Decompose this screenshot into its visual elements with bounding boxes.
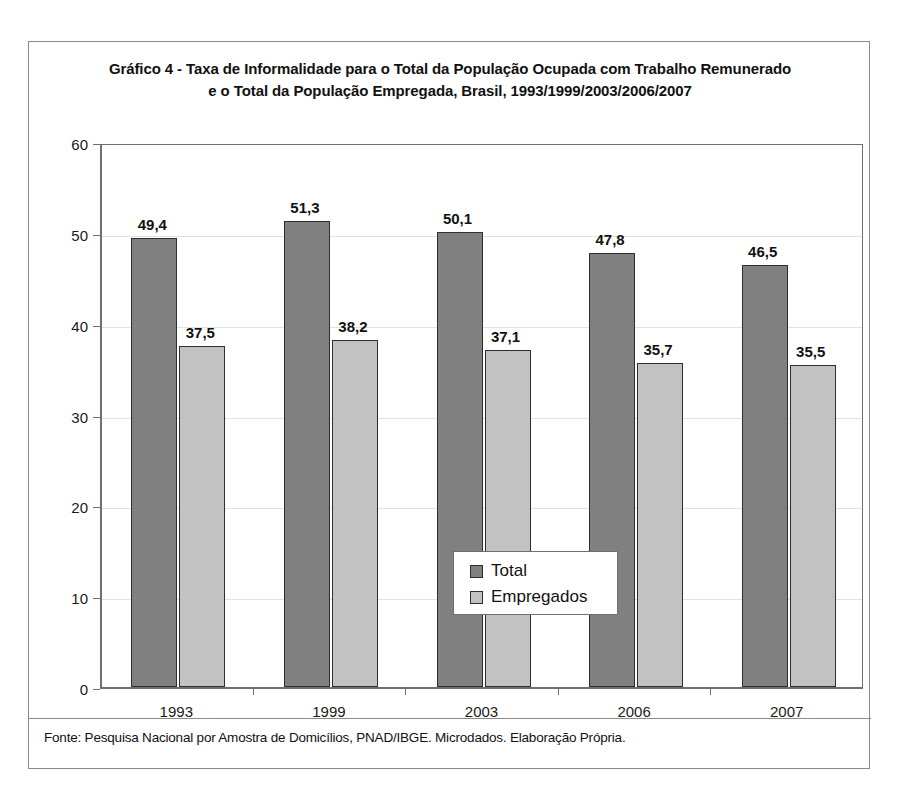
chart-title-line-2: e o Total da População Empregada, Brasil… (29, 80, 871, 102)
x-axis-tick-mark (710, 689, 711, 695)
y-axis-tick-label: 40 (42, 317, 88, 334)
y-axis-tick-label: 10 (42, 590, 88, 607)
bar-1993-total (131, 238, 177, 687)
bar-2006-empregados (637, 363, 683, 687)
x-axis-tick-mark (558, 689, 559, 695)
legend-swatch-total-icon (470, 565, 483, 578)
bar-1999-empregados (332, 340, 378, 687)
bar-2003-empregados (485, 350, 531, 687)
bar-value-label: 37,1 (491, 328, 520, 345)
bar-value-label: 49,4 (138, 216, 167, 233)
legend-item-empregados[interactable]: Empregados (470, 584, 617, 610)
y-axis-tick-mark (93, 598, 100, 599)
bar-value-label: 46,5 (748, 243, 777, 260)
bar-1999-total (284, 221, 330, 687)
legend-label-empregados: Empregados (491, 587, 587, 607)
y-axis-tick-mark (93, 417, 100, 418)
legend-label-total: Total (491, 561, 527, 581)
chart-legend: Total Empregados (453, 551, 618, 615)
bar-2006-total (589, 253, 635, 687)
chart-title: Gráfico 4 - Taxa de Informalidade para o… (29, 58, 871, 102)
y-axis-tick-label: 50 (42, 226, 88, 243)
footer-divider (29, 718, 871, 719)
y-axis-tick-mark (93, 326, 100, 327)
y-axis-tick-label: 60 (42, 136, 88, 153)
bar-2007-empregados (790, 365, 836, 687)
legend-swatch-empregados-icon (470, 591, 483, 604)
y-axis-tick-mark (93, 144, 100, 145)
legend-item-total[interactable]: Total (470, 558, 617, 584)
bar-2003-total (437, 232, 483, 687)
bar-value-label: 37,5 (186, 324, 215, 341)
y-axis-tick-mark (93, 507, 100, 508)
y-axis-tick-label: 30 (42, 408, 88, 425)
y-axis-tick-label: 20 (42, 499, 88, 516)
x-axis-tick-mark (253, 689, 254, 695)
bar-value-label: 35,5 (796, 343, 825, 360)
bar-value-label: 51,3 (290, 199, 319, 216)
x-axis-tick-mark (405, 689, 406, 695)
y-axis-tick-mark (93, 235, 100, 236)
chart-title-line-1: Gráfico 4 - Taxa de Informalidade para o… (109, 60, 791, 77)
source-note: Fonte: Pesquisa Nacional por Amostra de … (44, 730, 625, 745)
chart-figure: Gráfico 4 - Taxa de Informalidade para o… (28, 41, 870, 769)
y-axis-tick-label: 0 (42, 681, 88, 698)
bar-2007-total (742, 265, 788, 687)
bar-value-label: 47,8 (595, 231, 624, 248)
bar-value-label: 38,2 (338, 318, 367, 335)
bar-1993-empregados (179, 346, 225, 687)
bar-value-label: 35,7 (643, 341, 672, 358)
bar-value-label: 50,1 (443, 210, 472, 227)
y-axis-tick-mark (93, 689, 100, 690)
